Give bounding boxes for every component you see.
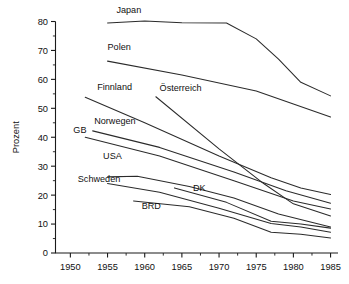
y-tick-label: 60 bbox=[38, 75, 48, 85]
chart-canvas: 0102030405060708019501955196019651970197… bbox=[0, 0, 349, 284]
x-tick-label: 1950 bbox=[60, 262, 81, 272]
series-line-japan bbox=[108, 21, 331, 96]
y-tick-label: 50 bbox=[38, 104, 48, 114]
series-label-gb: GB bbox=[73, 125, 86, 135]
series-label-norwegen: Norwegen bbox=[94, 116, 135, 126]
x-tick-label: 1960 bbox=[134, 262, 155, 272]
line-chart: 0102030405060708019501955196019651970197… bbox=[0, 0, 349, 284]
series-label-schweden: Schweden bbox=[78, 174, 120, 184]
y-axis-title: Prozent bbox=[11, 121, 21, 153]
x-tick-label: 1985 bbox=[320, 262, 341, 272]
series-label-usa: USA bbox=[103, 151, 123, 161]
y-tick-label: 0 bbox=[43, 248, 48, 258]
y-tick-label: 30 bbox=[38, 162, 48, 172]
series-label-finnland: Finnland bbox=[97, 82, 132, 92]
series-line-gb bbox=[85, 137, 330, 209]
y-tick-label: 10 bbox=[38, 219, 48, 229]
series-label--sterreich: Österreich bbox=[160, 83, 202, 93]
series-label-polen: Polen bbox=[108, 42, 131, 52]
x-tick-label: 1970 bbox=[209, 262, 230, 272]
series-line-polen bbox=[108, 61, 331, 117]
y-tick-label: 70 bbox=[38, 46, 48, 56]
series-label-dk: DK bbox=[193, 183, 206, 193]
y-tick-label: 80 bbox=[38, 17, 48, 27]
y-tick-label: 20 bbox=[38, 191, 48, 201]
series-label-japan: Japan bbox=[116, 5, 141, 15]
series-line-finnland bbox=[85, 97, 330, 194]
series-label-brd: BRD bbox=[142, 201, 162, 211]
y-tick-label: 40 bbox=[38, 133, 48, 143]
x-tick-label: 1980 bbox=[283, 262, 304, 272]
x-tick-label: 1965 bbox=[172, 262, 193, 272]
x-tick-label: 1975 bbox=[246, 262, 267, 272]
x-tick-label: 1955 bbox=[97, 262, 118, 272]
